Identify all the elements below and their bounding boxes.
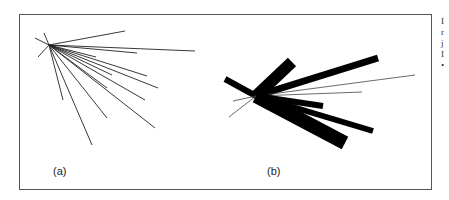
ray-line: [49, 45, 155, 128]
edge-text-fragment: r: [441, 27, 444, 38]
ray-line: [49, 31, 125, 45]
ray-line: [38, 45, 49, 57]
edge-text-fragment: •: [441, 60, 444, 71]
ray-line: [49, 45, 145, 100]
star-diagrams: [0, 0, 449, 200]
edge-text-fragment: I: [441, 49, 444, 60]
panel-b-star: [225, 58, 415, 143]
edge-text-fragment: I: [441, 16, 444, 27]
ray-line: [49, 45, 92, 145]
panel-a-star: [35, 31, 195, 145]
ray-line: [49, 45, 195, 51]
weighted-ray: [225, 79, 256, 96]
ray-line: [49, 45, 158, 88]
panel-label-a: (a): [53, 165, 66, 177]
panel-label-b: (b): [267, 165, 280, 177]
edge-text-fragment: j: [441, 38, 444, 49]
